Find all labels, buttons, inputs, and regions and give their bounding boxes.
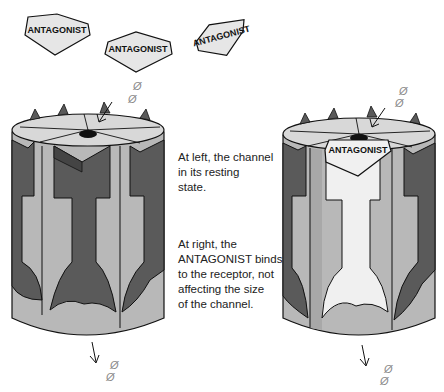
caption-line: in its resting bbox=[178, 165, 273, 180]
ion-icon: Ø bbox=[127, 93, 138, 105]
antagonist-label: ANTAGONIST bbox=[28, 25, 87, 35]
right-channel: ANTAGONIST bbox=[283, 106, 435, 366]
caption-line: affecting the size bbox=[178, 282, 282, 297]
ion-icon: Ø bbox=[109, 359, 120, 371]
ion-icon: Ø bbox=[132, 80, 143, 92]
caption-right: At right, the ANTAGONIST binds to the re… bbox=[178, 237, 282, 312]
caption-line: At right, the bbox=[178, 237, 282, 252]
caption-line: At left, the channel bbox=[178, 150, 273, 165]
free-antagonist-1: ANTAGONIST bbox=[25, 14, 90, 55]
ions-left-bottom: Ø Ø bbox=[105, 359, 120, 383]
ion-icon: Ø bbox=[383, 363, 394, 375]
caption-line: state. bbox=[178, 180, 273, 195]
ions-right-bottom: Ø Ø bbox=[379, 363, 394, 387]
caption-line: to the receptor, not bbox=[178, 267, 282, 282]
ions-left-top: Ø Ø bbox=[127, 80, 143, 105]
pore-icon bbox=[79, 130, 97, 138]
ion-icon: Ø bbox=[398, 85, 409, 97]
ions-right-top: Ø Ø bbox=[394, 85, 409, 109]
left-channel bbox=[12, 102, 164, 363]
antagonist-label: ANTAGONIST bbox=[329, 145, 388, 155]
caption-line: of the channel. bbox=[178, 297, 282, 312]
diagram-canvas: ANTAGONIST ANTAGONIST ANTAGONIST Ø Ø bbox=[0, 0, 444, 392]
antagonist-label: ANTAGONIST bbox=[109, 44, 168, 54]
ion-icon: Ø bbox=[394, 97, 405, 109]
ion-icon: Ø bbox=[105, 371, 116, 383]
caption-left: At left, the channel in its resting stat… bbox=[178, 150, 273, 195]
free-antagonist-2: ANTAGONIST bbox=[105, 32, 172, 72]
free-antagonist-3: ANTAGONIST bbox=[189, 15, 255, 63]
ion-icon: Ø bbox=[379, 375, 390, 387]
caption-line: ANTAGONIST binds bbox=[178, 252, 282, 267]
